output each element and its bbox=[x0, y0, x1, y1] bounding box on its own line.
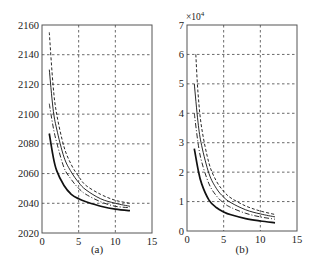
x-tick-label: 0 bbox=[39, 236, 44, 247]
chart-panel-a: 20202040206020802100212021402160 051015 … bbox=[18, 20, 157, 257]
y-tick-label: 2040 bbox=[18, 198, 39, 209]
y-multiplier: ×104 bbox=[186, 10, 205, 22]
y-tick-label: 2060 bbox=[18, 168, 39, 179]
y-tick-label: 2080 bbox=[18, 138, 39, 149]
y-tick-label: 7 bbox=[179, 20, 184, 31]
plot-frame-a bbox=[42, 25, 152, 233]
y-tick-label: 5 bbox=[179, 78, 184, 89]
x-tick-label: 0 bbox=[184, 234, 189, 245]
y-tick-labels-a: 20202040206020802100212021402160 bbox=[18, 20, 39, 239]
y-tick-label: 1 bbox=[179, 196, 184, 207]
figure: 20202040206020802100212021402160 051015 … bbox=[0, 0, 318, 274]
x-tick-label: 15 bbox=[292, 234, 303, 245]
y-tick-label: 2 bbox=[179, 167, 184, 178]
y-tick-label: 3 bbox=[179, 137, 184, 148]
chart-panel-b: 01234567 051015 ×104 (b) bbox=[179, 10, 303, 256]
x-tick-label: 5 bbox=[221, 234, 226, 245]
x-tick-label: 5 bbox=[76, 236, 81, 247]
y-tick-label: 0 bbox=[179, 226, 184, 237]
y-tick-label: 4 bbox=[179, 108, 185, 119]
plot-frame-b bbox=[187, 25, 297, 231]
y-tick-label: 2140 bbox=[18, 49, 39, 60]
y-tick-label: 2100 bbox=[18, 109, 39, 120]
y-tick-label: 2160 bbox=[18, 20, 39, 31]
y-tick-label: 2020 bbox=[18, 228, 39, 239]
y-tick-labels-b: 01234567 bbox=[179, 20, 185, 237]
x-tick-label: 10 bbox=[255, 234, 266, 245]
y-tick-label: 6 bbox=[179, 49, 184, 60]
x-tick-label: 15 bbox=[147, 236, 158, 247]
caption-a: (a) bbox=[91, 243, 104, 256]
x-tick-label: 10 bbox=[110, 236, 121, 247]
y-tick-label: 2120 bbox=[18, 79, 39, 90]
caption-b: (b) bbox=[236, 243, 249, 256]
